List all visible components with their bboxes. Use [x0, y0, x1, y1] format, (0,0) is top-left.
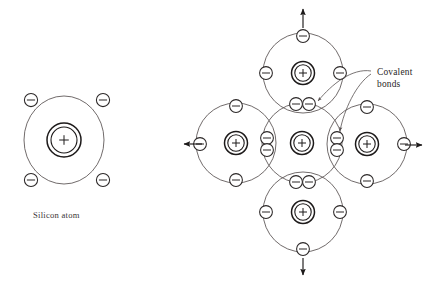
nucleus-top-atom: [292, 62, 315, 85]
covalent-bonds-label-line2: bonds: [377, 79, 401, 89]
nucleus-right-atom: [356, 133, 379, 156]
nucleus-left-atom: [225, 132, 248, 155]
lattice-electron: [361, 175, 374, 188]
silicon-electron: [96, 93, 109, 106]
silicon-electron: [96, 173, 109, 186]
lattice-electron: [361, 101, 374, 114]
silicon-atom-caption: Silicon atom: [33, 210, 80, 220]
lattice-electron: [260, 206, 273, 219]
lattice-electron: [334, 206, 347, 219]
lattice-electron: [297, 30, 310, 43]
silicon-electron: [24, 93, 37, 106]
covalent-bonds-label-line1: Covalent: [377, 67, 413, 77]
silicon-nucleus: [47, 123, 81, 157]
lattice-electron: [297, 243, 310, 256]
lattice-electron: [230, 174, 243, 187]
lattice-electron: [398, 138, 411, 151]
silicon-electron: [24, 173, 37, 186]
lattice-electron: [230, 100, 243, 113]
silicon-covalent-bond-figure: Silicon atom: [0, 0, 432, 281]
lattice-electron: [260, 67, 273, 80]
nucleus-bottom-atom: [292, 201, 315, 224]
nucleus-center-atom: [291, 132, 314, 155]
